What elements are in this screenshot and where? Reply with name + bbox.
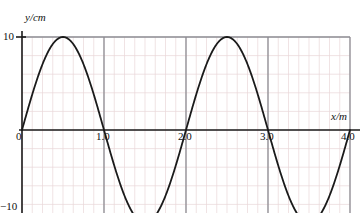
major-gridlines <box>104 37 268 213</box>
x-axis-label: x/m <box>331 111 347 122</box>
wave-plot-svg <box>0 0 360 213</box>
y-axis-tick-neg10: −10 <box>0 201 17 212</box>
y-axis-label: y/cm <box>25 12 46 23</box>
x-axis-tick-1: 1.0 <box>96 131 110 142</box>
x-axis-tick-2: 2.0 <box>178 131 192 142</box>
x-axis-tick-0: 0 <box>16 131 22 142</box>
wave-graph-figure: y/cm 10 −10 x/m 0 1.0 2.0 3.0 4.0 <box>0 0 360 213</box>
x-axis-tick-3: 3.0 <box>260 131 274 142</box>
x-axis-tick-4: 4.0 <box>341 131 355 142</box>
y-axis-tick-10: 10 <box>3 31 14 42</box>
